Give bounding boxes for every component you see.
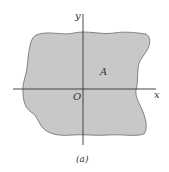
region-A — [23, 32, 150, 135]
y-axis-label: y — [74, 10, 81, 21]
area-diagram: y x O A (a) — [0, 0, 169, 172]
figure-caption: (a) — [76, 154, 89, 164]
origin-label: O — [73, 91, 81, 102]
region-label: A — [99, 66, 107, 77]
x-axis-label: x — [154, 89, 160, 100]
